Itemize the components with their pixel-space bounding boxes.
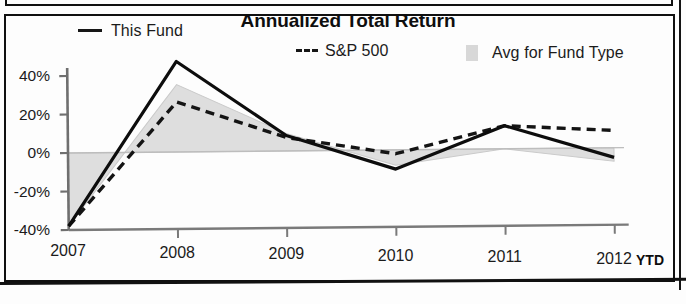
x-axis-ytd-note: YTD bbox=[636, 252, 664, 268]
x-tick-label: 2009 bbox=[251, 245, 321, 263]
x-axis-line bbox=[69, 225, 629, 230]
x-tick-label: 2011 bbox=[470, 248, 540, 266]
y-tick-label: 0% bbox=[0, 144, 50, 162]
chart-plot-area: 40% 20% 0% -20% -40% 2007 2008 2009 2010… bbox=[0, 0, 686, 304]
y-axis-line bbox=[67, 68, 69, 230]
x-tick-label: 2007 bbox=[33, 242, 103, 260]
y-tick-label: -40% bbox=[0, 221, 50, 239]
y-tick-label: 20% bbox=[0, 106, 50, 124]
scanned-page: Annualized Total Return This Fund S&P 50… bbox=[0, 0, 686, 304]
x-tick-label: 2010 bbox=[361, 247, 431, 265]
y-tick-label: 40% bbox=[0, 67, 50, 85]
series-line-sp-500 bbox=[68, 98, 615, 226]
y-tick-label: -20% bbox=[0, 183, 50, 201]
x-tick-label: 2008 bbox=[142, 244, 212, 262]
page-right-edge bbox=[679, 0, 681, 290]
